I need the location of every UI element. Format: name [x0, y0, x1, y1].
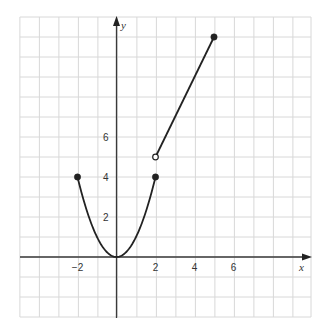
x-tick-label: −2	[72, 262, 84, 273]
x-axis-label: x	[298, 261, 304, 273]
y-tick-labels: 246	[103, 132, 109, 223]
x-tick-label: 2	[153, 262, 159, 273]
closed-endpoint-icon	[152, 174, 158, 180]
open-endpoint-icon	[153, 154, 159, 160]
y-tick-label: 2	[103, 212, 109, 223]
y-axis-label: y	[120, 19, 126, 31]
closed-endpoint-icon	[74, 174, 80, 180]
y-tick-label: 6	[103, 132, 109, 143]
x-tick-label: 4	[192, 262, 198, 273]
closed-endpoint-icon	[211, 34, 217, 40]
x-tick-labels: −2246	[72, 262, 237, 273]
piecewise-function-graph: x y −2246 246	[0, 0, 334, 334]
y-tick-label: 4	[103, 172, 109, 183]
grid	[20, 17, 311, 317]
x-tick-label: 6	[231, 262, 237, 273]
